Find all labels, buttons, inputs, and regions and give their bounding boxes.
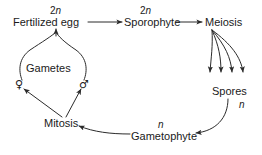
node-spores: Spores: [212, 86, 247, 97]
edge-spores-to-gametophyte: [196, 99, 228, 133]
male-symbol-icon: ♂: [79, 79, 89, 90]
node-mitosis: Mitosis: [44, 118, 78, 129]
node-gametes: Gametes: [26, 63, 71, 74]
ploidy-label-sporophyte: 2n: [140, 6, 151, 16]
ploidy-label-fertilized-egg: 2n: [50, 6, 61, 16]
ploidy-label-gametophyte: n: [158, 120, 164, 130]
ploidy-italic-sporophyte: n: [146, 5, 152, 16]
node-gametophyte: Gametophyte: [131, 131, 197, 142]
ploidy-italic-spores: n: [239, 99, 245, 110]
ploidy-label-spores: n: [239, 100, 245, 110]
edge-gametophyte-to-mitosis: [79, 126, 130, 134]
ploidy-italic-fertilized-egg: n: [56, 5, 62, 16]
node-sporophyte: Sporophyte: [124, 17, 180, 28]
node-meiosis: Meiosis: [205, 17, 242, 28]
edge-meiosis-to-spores-1: [210, 30, 212, 72]
ploidy-italic-gametophyte: n: [158, 119, 164, 130]
edge-mitosis-to-male-gamete: [66, 89, 81, 117]
life-cycle-diagram: 2n Fertilized egg 2n Sporophyte Meiosis …: [0, 0, 262, 155]
node-fertilized-egg: Fertilized egg: [13, 17, 79, 28]
female-symbol-icon: ♀: [15, 79, 23, 90]
edge-mitosis-to-female-gamete: [24, 89, 62, 117]
